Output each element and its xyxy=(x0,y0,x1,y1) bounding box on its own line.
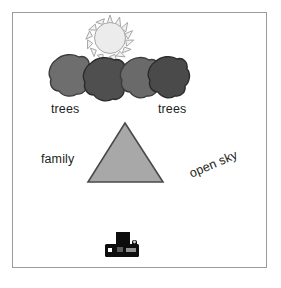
label-family: family xyxy=(41,152,74,166)
camera-icon xyxy=(105,232,139,257)
tree-blob-group xyxy=(49,55,189,101)
scene-canvas: trees trees family open sky xyxy=(0,0,281,288)
tree-blob-4 xyxy=(148,57,189,98)
label-trees-left: trees xyxy=(51,102,79,116)
family-triangle xyxy=(88,123,163,182)
sun-icon xyxy=(86,15,134,61)
label-trees-right: trees xyxy=(158,102,186,116)
scene-graphics xyxy=(0,0,281,288)
